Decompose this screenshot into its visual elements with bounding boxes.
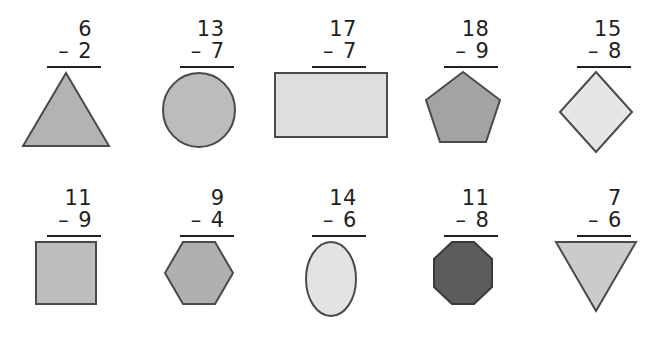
circle-icon bbox=[160, 70, 238, 150]
minus-operator-icon: – bbox=[588, 209, 599, 232]
shape-illustration bbox=[265, 239, 397, 323]
subtrahend: 6 bbox=[608, 209, 622, 232]
minus-operator-icon: – bbox=[58, 40, 69, 63]
subtrahend: 6 bbox=[343, 209, 357, 232]
subtrahend-line: – 4 bbox=[191, 209, 234, 232]
subtraction-expression: 6 – 2 bbox=[31, 18, 101, 68]
subtrahend: 8 bbox=[608, 40, 622, 63]
problem-cell[interactable]: 9 – 4 bbox=[132, 169, 264, 338]
subtrahend-line: – 2 bbox=[58, 40, 101, 63]
minuend: 11 bbox=[462, 187, 499, 209]
minus-operator-icon: – bbox=[191, 209, 202, 232]
answer-rule-line bbox=[47, 66, 101, 68]
answer-rule-line bbox=[180, 66, 234, 68]
shape-illustration bbox=[397, 70, 529, 154]
minuend: 14 bbox=[329, 187, 366, 209]
problem-cell[interactable]: 15 – 8 bbox=[530, 0, 662, 169]
subtrahend-line: – 6 bbox=[588, 209, 631, 232]
minus-operator-icon: – bbox=[455, 209, 466, 232]
shape-illustration bbox=[530, 239, 662, 323]
pentagon-icon bbox=[423, 70, 503, 150]
minuend: 11 bbox=[64, 187, 101, 209]
answer-rule-line bbox=[312, 235, 366, 237]
hexagon-icon bbox=[163, 239, 235, 319]
problem-cell[interactable]: 13 – 7 bbox=[132, 0, 264, 169]
octagon-icon bbox=[431, 239, 495, 319]
shape-illustration bbox=[132, 239, 264, 323]
subtrahend-line: – 9 bbox=[58, 209, 101, 232]
subtrahend: 8 bbox=[475, 209, 489, 232]
problem-cell[interactable]: 14 – 6 bbox=[265, 169, 397, 338]
minus-operator-icon: – bbox=[58, 209, 69, 232]
answer-rule-line bbox=[577, 235, 631, 237]
answer-rule-line bbox=[577, 66, 631, 68]
subtraction-expression: 11 – 8 bbox=[428, 187, 498, 237]
problem-cell[interactable]: 18 – 9 bbox=[397, 0, 529, 169]
minus-operator-icon: – bbox=[191, 40, 202, 63]
subtrahend-line: – 9 bbox=[455, 40, 498, 63]
answer-rule-line bbox=[180, 235, 234, 237]
answer-rule-line bbox=[444, 235, 498, 237]
minuend: 6 bbox=[78, 18, 101, 40]
shape-illustration bbox=[0, 239, 132, 323]
answer-rule-line bbox=[47, 235, 101, 237]
inverted-triangle-icon bbox=[553, 239, 639, 319]
subtrahend: 9 bbox=[78, 209, 92, 232]
subtrahend: 7 bbox=[343, 40, 357, 63]
subtrahend: 4 bbox=[211, 209, 225, 232]
problem-cell[interactable]: 11 – 8 bbox=[397, 169, 529, 338]
subtrahend-line: – 6 bbox=[323, 209, 366, 232]
subtrahend: 9 bbox=[475, 40, 489, 63]
subtraction-expression: 15 – 8 bbox=[561, 18, 631, 68]
shape-illustration bbox=[397, 239, 529, 323]
minuend: 15 bbox=[594, 18, 631, 40]
shape-illustration bbox=[265, 70, 397, 154]
subtrahend-line: – 8 bbox=[588, 40, 631, 63]
worksheet-canvas: 6 – 2 13 – 7 bbox=[0, 0, 662, 338]
subtraction-expression: 18 – 9 bbox=[428, 18, 498, 68]
problem-cell[interactable]: 17 – 7 bbox=[265, 0, 397, 169]
subtraction-expression: 13 – 7 bbox=[164, 18, 234, 68]
subtraction-expression: 14 – 6 bbox=[296, 187, 366, 237]
minus-operator-icon: – bbox=[323, 40, 334, 63]
minuend: 7 bbox=[608, 187, 631, 209]
problem-cell[interactable]: 6 – 2 bbox=[0, 0, 132, 169]
triangle-icon bbox=[20, 70, 112, 150]
subtrahend-line: – 7 bbox=[323, 40, 366, 63]
minuend: 18 bbox=[462, 18, 499, 40]
shape-illustration bbox=[0, 70, 132, 154]
minus-operator-icon: – bbox=[455, 40, 466, 63]
subtraction-expression: 9 – 4 bbox=[164, 187, 234, 237]
subtrahend: 2 bbox=[78, 40, 92, 63]
problem-row-top: 6 – 2 13 – 7 bbox=[0, 0, 662, 169]
problem-cell[interactable]: 11 – 9 bbox=[0, 169, 132, 338]
minus-operator-icon: – bbox=[323, 209, 334, 232]
square-icon bbox=[34, 239, 98, 319]
subtrahend-line: – 7 bbox=[191, 40, 234, 63]
subtraction-expression: 11 – 9 bbox=[31, 187, 101, 237]
subtrahend: 7 bbox=[211, 40, 225, 63]
rectangle-icon bbox=[273, 70, 389, 150]
subtrahend-line: – 8 bbox=[455, 209, 498, 232]
subtraction-expression: 17 – 7 bbox=[296, 18, 366, 68]
minuend: 13 bbox=[197, 18, 234, 40]
shape-illustration bbox=[530, 70, 662, 154]
problem-cell[interactable]: 7 – 6 bbox=[530, 169, 662, 338]
minuend: 9 bbox=[211, 187, 234, 209]
answer-rule-line bbox=[444, 66, 498, 68]
minuend: 17 bbox=[329, 18, 366, 40]
shape-illustration bbox=[132, 70, 264, 154]
answer-rule-line bbox=[312, 66, 366, 68]
diamond-icon bbox=[558, 70, 634, 154]
subtraction-expression: 7 – 6 bbox=[561, 187, 631, 237]
minus-operator-icon: – bbox=[588, 40, 599, 63]
ellipse-icon bbox=[303, 239, 359, 323]
problem-row-bottom: 11 – 9 9 – 4 bbox=[0, 169, 662, 338]
